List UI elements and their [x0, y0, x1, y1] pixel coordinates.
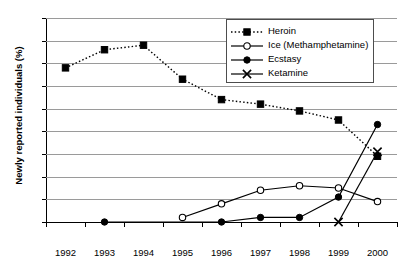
data-point-marker: [335, 117, 341, 123]
data-point-marker: [218, 201, 224, 207]
x-tick-mark: [124, 222, 125, 227]
data-point-marker: [140, 42, 146, 48]
data-point-marker: [101, 219, 107, 225]
legend-item[interactable]: Ecstasy: [230, 51, 368, 65]
data-point-marker: [374, 121, 380, 127]
data-point-marker: [257, 214, 263, 220]
x-tick-mark: [280, 222, 281, 227]
data-point-marker: [62, 65, 68, 71]
data-point-marker: [179, 76, 185, 82]
legend-item[interactable]: Ketamine: [230, 65, 368, 79]
y-axis-title: Newly reported individuals (%): [13, 16, 24, 216]
series-line: [183, 186, 378, 218]
x-tick-mark: [358, 222, 359, 227]
x-tick-mark: [46, 222, 47, 227]
x-tick-mark: [202, 222, 203, 227]
legend: HeroinIce (Methamphetamine)EcstasyKetami…: [226, 19, 374, 83]
data-point-marker: [296, 108, 302, 114]
data-point-marker: [257, 187, 263, 193]
data-point-marker: [296, 183, 302, 189]
legend-key-icon: [230, 24, 264, 36]
legend-label: Heroin: [264, 25, 296, 36]
legend-label: Ice (Methamphetamine): [264, 39, 368, 50]
legend-marker: [244, 43, 250, 49]
legend-marker: [244, 57, 250, 63]
data-point-marker: [101, 47, 107, 53]
series-ecstasy: [101, 121, 380, 225]
x-tick-label: 2000: [348, 247, 408, 258]
legend-label: Ketamine: [264, 67, 308, 78]
series-line: [105, 125, 378, 222]
data-point-marker: [374, 198, 380, 204]
legend-key-icon: [230, 52, 264, 64]
legend-item[interactable]: Ice (Methamphetamine): [230, 37, 368, 51]
legend-label: Ecstasy: [264, 53, 301, 64]
legend-item[interactable]: Heroin: [230, 23, 368, 37]
x-tick-mark: [319, 222, 320, 227]
x-tick-mark: [241, 222, 242, 227]
data-point-marker: [218, 219, 224, 225]
data-point-marker: [179, 214, 185, 220]
x-tick-mark: [163, 222, 164, 227]
data-point-marker: [257, 101, 263, 107]
x-tick-mark: [397, 222, 398, 227]
legend-marker: [244, 29, 250, 35]
data-point-marker: [335, 185, 341, 191]
data-point-marker: [296, 214, 302, 220]
data-point-marker: [335, 194, 341, 200]
legend-key-icon: [230, 38, 264, 50]
x-tick-mark: [85, 222, 86, 227]
data-point-marker: [218, 96, 224, 102]
legend-key-icon: [230, 66, 264, 78]
